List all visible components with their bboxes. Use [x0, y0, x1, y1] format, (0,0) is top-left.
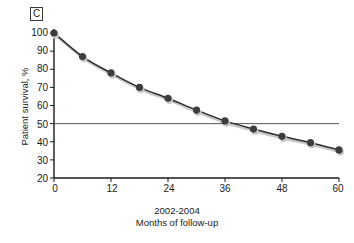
data-point [335, 146, 342, 153]
data-point [79, 53, 86, 60]
data-point [278, 133, 285, 140]
data-point [250, 125, 257, 132]
data-point [107, 69, 114, 76]
data-point [50, 29, 57, 36]
axis-group [54, 29, 339, 178]
survival-curve-shadow [55, 35, 340, 152]
data-point [307, 139, 314, 146]
survival-chart-panel-c: C Patient survival, % 100 90 80 70 60 50… [0, 0, 354, 243]
data-point [136, 84, 143, 91]
data-point [221, 117, 228, 124]
plot-area [0, 0, 354, 243]
data-point-group [50, 29, 342, 153]
data-point [164, 95, 171, 102]
data-point [193, 106, 200, 113]
data-point-shadows [52, 32, 344, 156]
survival-curve [54, 33, 339, 150]
